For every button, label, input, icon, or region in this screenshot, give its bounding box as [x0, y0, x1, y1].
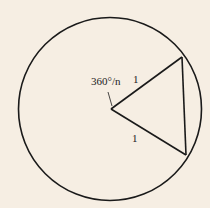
- radius-bottom: [111, 109, 186, 155]
- side-bottom-label: 1: [132, 132, 138, 144]
- chord: [182, 57, 186, 155]
- circle-diagram: [0, 0, 210, 208]
- circle: [19, 18, 202, 201]
- side-top-label: 1: [133, 73, 139, 85]
- angle-pointer: [108, 92, 112, 106]
- radius-top: [111, 57, 182, 109]
- angle-label: 360°/n: [91, 75, 120, 87]
